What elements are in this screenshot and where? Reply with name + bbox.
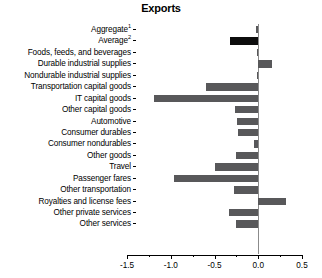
category-label: Other capital goods [62, 104, 131, 115]
bar-row: Other services [0, 218, 322, 229]
category-label: Foods, feeds, and beverages [28, 47, 131, 58]
category-label: Automotive [91, 116, 131, 127]
category-label: Nondurable industrial supplies [24, 70, 131, 81]
bar-row: Durable industrial supplies [0, 58, 322, 69]
category-label: Consumer durables [61, 127, 131, 138]
bar [215, 163, 258, 170]
axis-tick [258, 255, 259, 259]
category-tick-mark [133, 29, 136, 30]
category-tick-mark [133, 86, 136, 87]
category-label: Royalties and license fees [38, 196, 131, 207]
axis-tick [280, 255, 281, 257]
axis-tick [236, 255, 237, 257]
bar [206, 83, 259, 90]
category-tick-mark [133, 201, 136, 202]
category-tick-mark [133, 178, 136, 179]
bar [254, 140, 258, 147]
category-tick-mark [133, 212, 136, 213]
category-label: IT capital goods [75, 93, 131, 104]
bar-row: Other capital goods [0, 104, 322, 115]
bar [236, 220, 258, 227]
category-tick-mark [133, 63, 136, 64]
bar-row: Aggregate1 [0, 24, 322, 35]
bar-row: Foods, feeds, and beverages [0, 47, 322, 58]
category-label: Transportation capital goods [31, 81, 131, 92]
category-tick-mark [133, 143, 136, 144]
category-tick-mark [133, 40, 136, 41]
axis-tick-label: 0.5 [296, 261, 307, 270]
chart-figure: Exports Aggregate1Average2Foods, feeds, … [0, 0, 322, 278]
axis-tick [193, 255, 194, 257]
bar [257, 49, 259, 56]
bar-row: Other goods [0, 150, 322, 161]
bar-row: Automotive [0, 116, 322, 127]
axis-tick [302, 255, 303, 259]
bar [237, 118, 258, 125]
chart-title: Exports [0, 2, 322, 14]
category-tick-mark [133, 155, 136, 156]
axis-tick [149, 255, 150, 257]
footnote-marker: 2 [128, 35, 131, 41]
bar [258, 198, 286, 205]
category-label: Consumer nondurables [48, 138, 131, 149]
bar [256, 26, 259, 33]
bar [238, 129, 258, 136]
bar [236, 152, 259, 159]
category-tick-mark [133, 98, 136, 99]
bar [234, 186, 259, 193]
category-tick-mark [133, 223, 136, 224]
plot-area: Aggregate1Average2Foods, feeds, and beve… [0, 24, 322, 254]
axis-tick-label: -1.5 [120, 261, 134, 270]
bar-rows: Aggregate1Average2Foods, feeds, and beve… [0, 24, 322, 230]
bar-row: Other transportation [0, 184, 322, 195]
bar-row: Royalties and license fees [0, 196, 322, 207]
category-label: Other private services [54, 207, 131, 218]
bar-row: Other private services [0, 207, 322, 218]
bar [257, 72, 259, 79]
footnote-marker: 1 [128, 23, 131, 29]
category-tick-mark [133, 52, 136, 53]
category-tick-mark [133, 189, 136, 190]
bar [154, 95, 258, 102]
bar [229, 209, 258, 216]
axis-tick-label: 0.0 [253, 261, 264, 270]
category-label: Passenger fares [73, 173, 131, 184]
category-tick-mark [133, 109, 136, 110]
axis-tick [171, 255, 172, 259]
category-tick-mark [133, 132, 136, 133]
axis-tick-label: -0.5 [207, 261, 221, 270]
bar [174, 175, 258, 182]
category-label: Other goods [87, 150, 131, 161]
bar-row: Average2 [0, 35, 322, 46]
bar-row: IT capital goods [0, 93, 322, 104]
category-label: Aggregate1 [91, 24, 131, 35]
axis-tick-label: -1.0 [164, 261, 178, 270]
bar-row: Transportation capital goods [0, 81, 322, 92]
category-tick-mark [133, 121, 136, 122]
category-label: Durable industrial supplies [38, 58, 131, 69]
axis-tick [215, 255, 216, 259]
category-label: Other services [80, 218, 131, 229]
bar-row: Travel [0, 161, 322, 172]
bar [230, 37, 258, 44]
category-label: Travel [109, 161, 131, 172]
category-tick-mark [133, 75, 136, 76]
bar-row: Consumer durables [0, 127, 322, 138]
bar-row: Nondurable industrial supplies [0, 70, 322, 81]
category-tick-mark [133, 166, 136, 167]
category-label: Average2 [98, 35, 131, 46]
bar [235, 106, 259, 113]
bar-row: Passenger fares [0, 173, 322, 184]
category-label: Other transportation [60, 184, 131, 195]
bar [258, 60, 272, 67]
bar-row: Consumer nondurables [0, 138, 322, 149]
axis-tick [127, 255, 128, 259]
